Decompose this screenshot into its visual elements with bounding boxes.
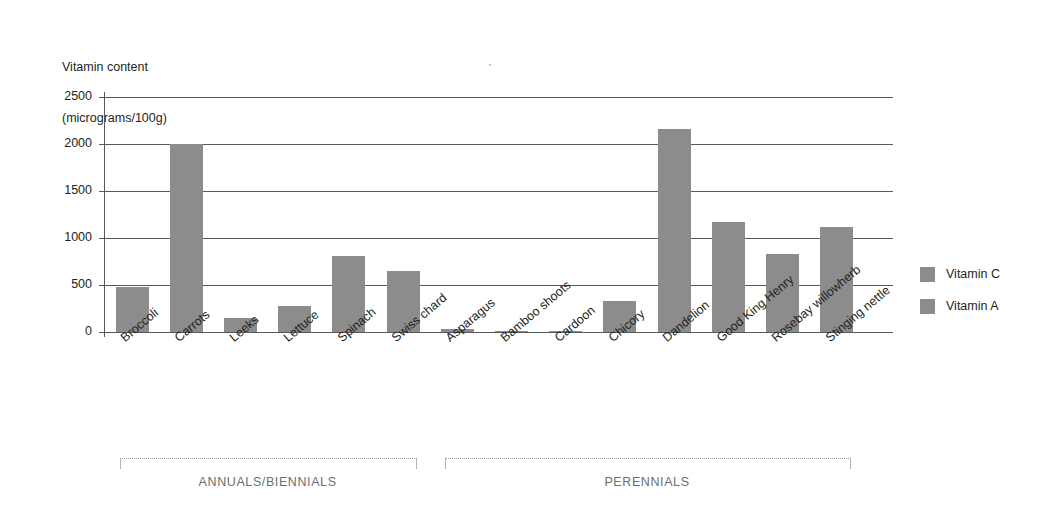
y-tick-label-2000: 2000: [40, 136, 92, 150]
legend-swatch-icon: [920, 299, 935, 314]
bar-carrots[interactable]: [170, 144, 203, 332]
y-tick-label-500: 500: [40, 277, 92, 291]
legend-item-vitamin-c[interactable]: Vitamin C: [920, 258, 1000, 290]
gridline-1500: [105, 191, 893, 192]
bracket-annuals-biennials: [120, 458, 417, 469]
legend-label: Vitamin C: [946, 267, 1000, 281]
gridline-1000: [105, 238, 893, 239]
legend: Vitamin CVitamin A: [920, 258, 1000, 322]
y-tick-label-2500: 2500: [40, 89, 92, 103]
bar-dandelion[interactable]: [658, 129, 691, 333]
legend-item-vitamin-a[interactable]: Vitamin A: [920, 290, 1000, 322]
legend-label: Vitamin A: [946, 299, 999, 313]
bracket-perennials: [445, 458, 851, 469]
y-tick-label-0: 0: [40, 324, 92, 338]
y-axis-title-line-1: Vitamin content: [62, 59, 167, 76]
scan-artifact-mark: [489, 64, 491, 66]
group-label-annuals-biennials: ANNUALS/BIENNIALS: [120, 475, 415, 489]
legend-swatch-icon: [920, 267, 935, 282]
gridline-2500: [105, 97, 893, 98]
group-label-perennials: PERENNIALS: [445, 475, 849, 489]
y-tick-label-1500: 1500: [40, 183, 92, 197]
gridline-2000: [105, 144, 893, 145]
x-axis-category-labels: BroccoliCarrotsLeeksLettuceSpinachSwiss …: [105, 334, 893, 454]
y-tick-label-1000: 1000: [40, 230, 92, 244]
